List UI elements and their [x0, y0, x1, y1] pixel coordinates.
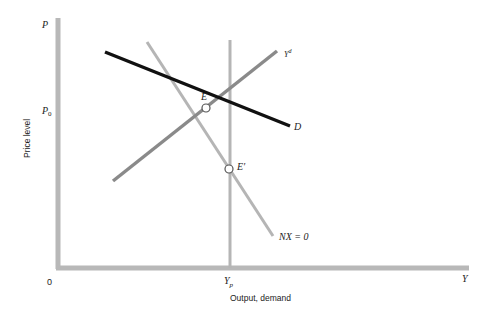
x-tick-yp: Yp — [224, 275, 234, 289]
x-axis-symbol: Y — [462, 273, 469, 284]
origin-label: 0 — [47, 277, 52, 287]
point-e-prime-marker — [225, 165, 233, 173]
y-axis-symbol: P — [41, 19, 48, 30]
curve-d-label: D — [293, 121, 302, 132]
y-tick-p0: P0 — [41, 105, 52, 118]
x-axis-label: Output, demand — [230, 293, 291, 303]
y-axis-label: Price level — [22, 119, 32, 158]
point-e-prime-label: E′ — [236, 161, 246, 172]
curve-yd-label: Yd — [284, 48, 292, 59]
point-e-label: E — [200, 91, 207, 102]
aggregate-demand-yd-line — [113, 51, 277, 181]
curve-nx-zero-label: NX = 0 — [278, 231, 309, 242]
economics-diagram: E E′ D Yd NX = 0 P P0 Price level 0 Yp Y… — [0, 0, 491, 317]
point-e-marker — [202, 104, 210, 112]
